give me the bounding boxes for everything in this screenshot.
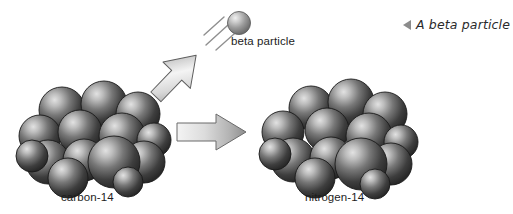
carbon-14-label: carbon-14 (61, 191, 114, 204)
caption: A beta particle (403, 17, 510, 32)
diagonal-emission-arrow (141, 41, 211, 111)
nitrogen-14-nucleus (263, 74, 415, 192)
left-triangle-marker-icon (403, 20, 411, 30)
horizontal-transformation-arrow (174, 110, 250, 154)
beta-decay-diagram: beta particle carbon-14 nitrogen-14 A be… (0, 0, 513, 214)
nitrogen-14-label: nitrogen-14 (305, 191, 364, 204)
beta-particle-graphic (202, 8, 260, 56)
caption-text: A beta particle (416, 17, 510, 32)
beta-particle-label: beta particle (231, 35, 295, 48)
